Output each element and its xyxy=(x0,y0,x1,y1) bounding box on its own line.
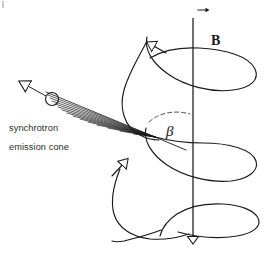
caption-synchrotron: synchrotron xyxy=(9,124,58,133)
vector-arrow-icon xyxy=(197,7,210,13)
caption-emission-cone: emission cone xyxy=(9,143,69,152)
pitch-angle-label: β xyxy=(166,124,173,139)
pitch-angle-arc xyxy=(149,112,190,122)
electron-helical-trajectory xyxy=(112,37,259,242)
synchrotron-emission-diagram: synchrotron emission cone B β xyxy=(0,0,267,264)
magnetic-field-label: B xyxy=(197,6,220,62)
magnetic-field-symbol: B xyxy=(211,33,220,48)
scan-artifact xyxy=(2,1,4,8)
electron-velocity-arrow xyxy=(26,85,46,96)
